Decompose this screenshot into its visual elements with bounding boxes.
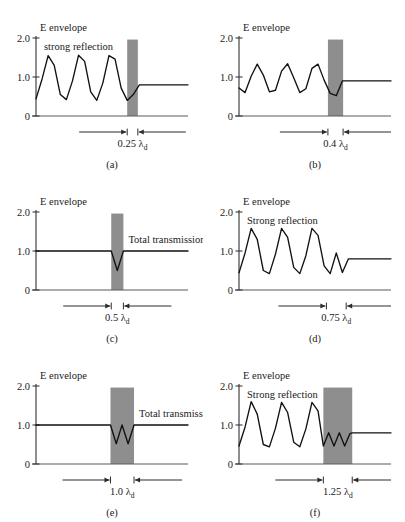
thickness-label: 0.4 λd xyxy=(323,138,348,152)
y-tick-label: 2.0 xyxy=(220,207,233,218)
plot-panel-b: 2.01.00E envelope0.4 λd(b) xyxy=(203,0,405,174)
axis-title: E envelope xyxy=(243,196,290,207)
y-tick-label: 0 xyxy=(25,111,30,122)
y-tick-label: 1.0 xyxy=(17,246,30,257)
thickness-label: 1.0 λd xyxy=(110,486,135,500)
panel-tag: (f) xyxy=(310,507,321,519)
panel-tag: (b) xyxy=(309,159,322,171)
panel-annotation: Total transmission xyxy=(139,408,203,419)
dielectric-slab xyxy=(323,388,352,464)
thickness-label: 0.5 λd xyxy=(105,312,130,326)
y-tick-label: 1.0 xyxy=(220,72,233,83)
axis-title: E envelope xyxy=(40,196,87,207)
dimension-arrow-left xyxy=(139,129,144,134)
y-tick-label: 2.0 xyxy=(17,33,30,44)
y-tick-label: 0 xyxy=(228,459,233,470)
thickness-label: 0.25 λd xyxy=(118,138,148,152)
dimension-arrow-right xyxy=(317,477,322,482)
plot-panel-e: 2.01.00E envelopeTotal transmission1.0 λ… xyxy=(0,348,203,522)
panel-tag: (c) xyxy=(106,333,118,345)
panel-tag: (d) xyxy=(309,333,322,345)
dimension-arrow-left xyxy=(124,303,129,308)
y-tick-label: 1.0 xyxy=(17,420,30,431)
dielectric-slab xyxy=(111,214,123,290)
dielectric-slab xyxy=(328,40,343,116)
thickness-label: 0.75 λd xyxy=(321,312,351,326)
y-tick-label: 1.0 xyxy=(17,72,30,83)
panel-tag: (a) xyxy=(106,159,118,171)
dimension-arrow-left xyxy=(347,303,352,308)
dimension-arrow-left xyxy=(344,129,349,134)
panel-annotation: Strong reflection xyxy=(247,215,319,226)
envelope-curve xyxy=(239,402,391,447)
dimension-arrow-left xyxy=(353,477,358,482)
plot-panel-c: 2.01.00E envelopeTotal transmission0.5 λ… xyxy=(0,174,203,348)
envelope-curve xyxy=(239,228,391,273)
panel-annotation: Total transmission xyxy=(128,234,203,245)
axis-title: E envelope xyxy=(40,370,87,381)
plot-panel-a: 2.01.00E envelopestrong reflection0.25 λ… xyxy=(0,0,203,174)
dimension-arrow-right xyxy=(320,303,325,308)
y-tick-label: 2.0 xyxy=(220,381,233,392)
panel-tag: (e) xyxy=(106,507,118,519)
dimension-arrow-right xyxy=(104,477,109,482)
y-tick-label: 2.0 xyxy=(220,33,233,44)
y-tick-label: 0 xyxy=(228,111,233,122)
y-tick-label: 0 xyxy=(228,285,233,296)
dimension-arrow-right xyxy=(121,129,126,134)
dimension-arrow-right xyxy=(105,303,110,308)
dimension-arrow-right xyxy=(322,129,327,134)
y-tick-label: 0 xyxy=(25,459,30,470)
panel-annotation: Strong reflection xyxy=(247,389,319,400)
y-tick-label: 0 xyxy=(25,285,30,296)
y-tick-label: 1.0 xyxy=(220,420,233,431)
y-tick-label: 2.0 xyxy=(17,207,30,218)
dimension-arrow-left xyxy=(135,477,140,482)
plot-panel-d: 2.01.00E envelopeStrong reflection0.75 λ… xyxy=(203,174,405,348)
y-tick-label: 2.0 xyxy=(17,381,30,392)
axis-title: E envelope xyxy=(40,22,87,33)
axis-title: E envelope xyxy=(243,370,290,381)
dielectric-slab xyxy=(127,40,138,116)
y-tick-label: 1.0 xyxy=(220,246,233,257)
axis-title: E envelope xyxy=(243,22,290,33)
figure-panel-grid: 2.01.00E envelopestrong reflection0.25 λ… xyxy=(0,0,405,522)
panel-annotation: strong reflection xyxy=(44,41,114,52)
envelope-curve xyxy=(239,64,391,96)
envelope-curve xyxy=(36,55,188,100)
thickness-label: 1.25 λd xyxy=(323,486,353,500)
plot-panel-f: 2.01.00E envelopeStrong reflection1.25 λ… xyxy=(203,348,405,522)
